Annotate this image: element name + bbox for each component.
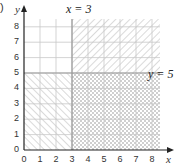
y-tick-label: 0 xyxy=(14,145,19,154)
x-tick-label: 6 xyxy=(118,155,123,164)
line-label-y5: y = 5 xyxy=(148,67,173,82)
y-tick-label: 7 xyxy=(14,37,19,46)
y-tick-label: 1 xyxy=(14,130,19,139)
part-label: ) xyxy=(0,2,4,13)
x-tick-label: 5 xyxy=(102,155,107,164)
shaded-region xyxy=(24,73,72,150)
x-tick-label: 1 xyxy=(38,155,43,164)
y-axis-label: y xyxy=(15,4,20,15)
x-tick-label: 0 xyxy=(22,155,27,164)
x-tick-label: 8 xyxy=(150,155,155,164)
x-tick-label: 4 xyxy=(86,155,91,164)
y-tick-label: 4 xyxy=(14,83,19,92)
y-tick-label: 2 xyxy=(14,114,19,123)
y-tick-label: 5 xyxy=(14,68,19,77)
x-axis-label: x xyxy=(166,154,171,165)
region-chart xyxy=(0,0,182,165)
line-label-x3: x = 3 xyxy=(66,2,91,17)
x-tick-label: 3 xyxy=(70,155,75,164)
y-tick-label: 8 xyxy=(14,22,19,31)
y-axis-arrow-icon xyxy=(21,5,27,12)
x-tick-label: 7 xyxy=(134,155,139,164)
shaded-region xyxy=(72,73,160,150)
y-tick-label: 6 xyxy=(14,53,19,62)
x-tick-label: 2 xyxy=(54,155,59,164)
y-tick-label: 3 xyxy=(14,99,19,108)
